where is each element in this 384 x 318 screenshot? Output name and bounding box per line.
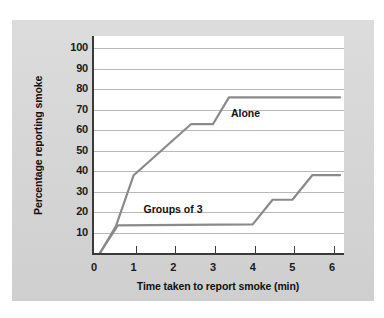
x-tick-mark: [294, 246, 295, 253]
y-tick-label: 100: [46, 41, 88, 53]
x-tick-mark: [215, 246, 216, 253]
y-tick-label: 40: [46, 164, 88, 176]
y-tick-label: 60: [46, 123, 88, 135]
plot-inner: AloneGroups of 3: [94, 36, 344, 253]
plot-area: AloneGroups of 3: [92, 36, 344, 255]
chart-figure: Percentage reporting smoke 1020304050607…: [0, 0, 384, 318]
y-axis-title: Percentage reporting smoke: [30, 36, 46, 255]
x-tick-label: 3: [210, 261, 216, 273]
x-tick-mark: [334, 246, 335, 253]
y-tick-label: 20: [46, 205, 88, 217]
series-line: [100, 175, 340, 253]
x-tick-label: 6: [329, 261, 335, 273]
y-tick-label: 90: [46, 62, 88, 74]
series-label: Groups of 3: [144, 203, 203, 215]
x-axis-title: Time taken to report smoke (min): [92, 280, 344, 292]
x-tick-label: 4: [250, 261, 256, 273]
x-tick-mark: [255, 246, 256, 253]
y-tick-label: 30: [46, 185, 88, 197]
x-tick-mark: [136, 246, 137, 253]
y-tick-label: 80: [46, 82, 88, 94]
x-tick-mark: [175, 246, 176, 253]
x-tick-label: 1: [131, 261, 137, 273]
y-tick-label: 70: [46, 103, 88, 115]
y-tick-label: 50: [46, 144, 88, 156]
y-tick-label: 10: [46, 226, 88, 238]
x-tick-label: 5: [289, 261, 295, 273]
data-lines: [94, 36, 344, 253]
series-line: [100, 97, 340, 253]
x-tick-label: 2: [170, 261, 176, 273]
x-tick-label: 0: [91, 261, 97, 273]
series-label: Alone: [231, 107, 260, 119]
